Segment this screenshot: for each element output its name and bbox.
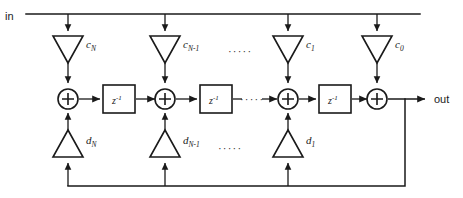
- coef-label-c-n-1: cN-1: [183, 38, 199, 53]
- coef-label-d-n-1: dN-1: [183, 134, 200, 149]
- coef-label-c-1: c1: [306, 38, 315, 53]
- output-port-label: out: [434, 93, 449, 105]
- iir-filter-diagram: in cN cN-1 c1: [0, 0, 463, 198]
- input-distribution-bus: [26, 14, 420, 31]
- gain-triangle-c-n-1[interactable]: [150, 36, 180, 63]
- gain-triangle-d-n-1[interactable]: [150, 130, 180, 157]
- gain-triangle-c-n[interactable]: [53, 36, 83, 63]
- summing-junction-0[interactable]: [367, 89, 387, 109]
- delay-block-3[interactable]: z-1: [319, 85, 351, 113]
- diagram-canvas: in cN cN-1 c1: [0, 0, 463, 198]
- gain-triangle-d-1[interactable]: [273, 130, 303, 157]
- tap-to-adder-wires: [68, 63, 377, 83]
- coef-label-d-1: d1: [306, 134, 315, 149]
- coef-label-c-0: c0: [395, 38, 404, 53]
- summing-junction-1[interactable]: [278, 89, 298, 109]
- coef-label-d-n: dN: [86, 134, 98, 149]
- summing-junction-n-1[interactable]: [155, 89, 175, 109]
- gain-triangle-c-0[interactable]: [362, 36, 392, 63]
- delay-block-1[interactable]: z-1: [103, 85, 135, 113]
- coef-label-c-n: cN: [86, 38, 97, 53]
- gain-triangle-d-n[interactable]: [53, 130, 83, 157]
- summing-junction-n[interactable]: [58, 89, 78, 109]
- gain-triangle-c-1[interactable]: [273, 36, 303, 63]
- ellipsis-middle-icon: ·····: [240, 93, 264, 105]
- ellipsis-top-icon: ·····: [228, 45, 252, 57]
- input-port-label: in: [5, 10, 14, 22]
- delay-block-2[interactable]: z-1: [200, 85, 232, 113]
- ellipsis-bottom-icon: ·····: [218, 142, 242, 154]
- feedback-tap-to-adder-wires: [68, 113, 288, 130]
